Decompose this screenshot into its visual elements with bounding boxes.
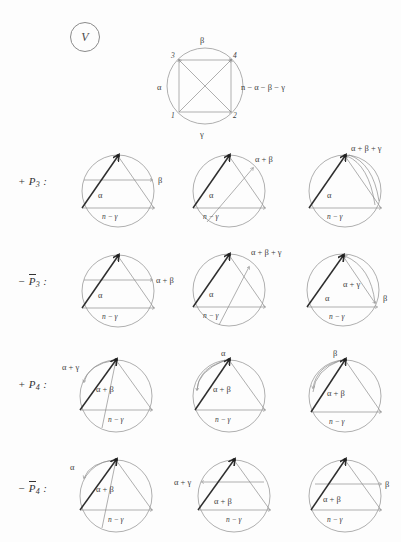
label-3: n − γ — [329, 312, 346, 321]
diagram-p4-plus-3: β α + β n − γ — [297, 348, 401, 442]
chord-alpha — [193, 255, 229, 307]
row-label-p4-minus: − P4 : — [18, 482, 47, 496]
label-0: α — [327, 190, 332, 200]
chord-closing — [234, 460, 270, 510]
apex-dot — [343, 458, 347, 462]
label-1: α + β — [255, 154, 273, 164]
label-0: α — [221, 348, 226, 358]
label-1: α + β — [327, 388, 345, 398]
chord-closing — [229, 360, 265, 410]
cell-circle — [82, 255, 154, 327]
chord-closing — [229, 255, 265, 307]
label-1: α + β — [96, 484, 114, 494]
apex-dot — [114, 358, 118, 362]
label-1: β — [158, 175, 162, 185]
diagram-p4-plus-2: α α + β n − γ — [181, 348, 291, 442]
label-2: n − γ — [108, 515, 125, 524]
diagram-p4-minus-3: β α + β n − γ — [297, 448, 401, 542]
cell-circle — [82, 155, 154, 227]
diagram-p4-minus-1: α α + β n − γ — [48, 448, 176, 542]
label-2: n − γ — [203, 311, 220, 320]
label-0: α — [209, 190, 214, 200]
chord-alpha — [82, 156, 118, 208]
apex-dot — [116, 254, 120, 258]
label-2: n − γ — [102, 312, 119, 321]
diagram-p3-minus-3: α α + γ β n − γ — [297, 245, 401, 335]
label-1: α + γ — [343, 279, 360, 289]
chord-alpha-plus-beta-plus-gamma — [219, 267, 249, 325]
chord-alpha — [82, 256, 118, 308]
chord-closing — [345, 360, 381, 412]
label-2: n − γ — [102, 212, 119, 221]
figure-tag-v: V — [70, 22, 100, 52]
label-1: α + β — [96, 384, 114, 394]
label-2: n − γ — [329, 417, 346, 426]
apex-dot — [341, 254, 345, 258]
label-0: α — [325, 293, 330, 303]
label-1: α + β — [213, 384, 231, 394]
row-label-p3-minus: − P3 : — [18, 275, 47, 289]
figure-tag-label: V — [81, 30, 88, 45]
master-label-gamma: γ — [199, 129, 204, 139]
row-label-p4-plus: + P4 : — [18, 378, 47, 392]
label-2: n − γ — [327, 212, 344, 221]
label-1: α + β — [323, 494, 341, 504]
chord-closing — [116, 460, 152, 510]
label-2: n − γ — [108, 415, 125, 424]
label-2: n − γ — [203, 212, 220, 221]
diagram-p3-plus-3: α α + β + γ n − γ — [297, 143, 401, 235]
label-0: α — [98, 190, 103, 200]
label-0: α + γ — [174, 477, 191, 487]
chord-closing — [118, 256, 154, 308]
label-0: α — [70, 462, 75, 472]
label-0: β — [333, 348, 337, 358]
apex-dot — [227, 358, 231, 362]
master-label-alpha: α — [157, 82, 162, 92]
label-1: α + β — [214, 496, 232, 506]
label-0: α + γ — [62, 362, 79, 372]
master-label-remainder: n − α − β − γ — [241, 82, 285, 92]
label-0: α — [98, 290, 103, 300]
arc-outer — [349, 155, 379, 201]
cell-circle — [309, 155, 381, 227]
diagram-p3-plus-2: α α + β n − γ — [181, 148, 291, 234]
label-1: α + β + γ — [351, 143, 382, 153]
diagram-p4-minus-2: α + γ α + β n − γ — [172, 448, 290, 542]
label-2: n − γ — [327, 515, 344, 524]
vertex-label-2: 2 — [233, 111, 237, 120]
master-label-beta: β — [200, 35, 204, 45]
chord-alpha — [309, 156, 345, 208]
apex-dot — [227, 154, 231, 158]
apex-dot — [116, 154, 120, 158]
arc-alpha-plus-beta-plus-gamma — [347, 156, 375, 205]
chord-alpha-plus-beta — [311, 360, 345, 412]
vertex-label-4: 4 — [233, 51, 237, 60]
apex-dot — [343, 358, 347, 362]
apex-dot — [232, 458, 236, 462]
diagram-p3-minus-1: α α + β n − γ — [66, 248, 176, 334]
chord-alpha — [193, 156, 229, 208]
arc-alpha-plus-gamma — [84, 360, 116, 382]
diagram-p4-plus-1: α + γ α + β n − γ — [60, 348, 176, 442]
apex-dot — [343, 154, 347, 158]
label-2: n − γ — [215, 415, 232, 424]
label-2: n − γ — [226, 515, 243, 524]
label-0: α — [209, 289, 214, 299]
label-2: β — [383, 293, 387, 303]
vertex-label-1: 1 — [171, 111, 175, 120]
diagram-p3-minus-2: α α + β + γ n − γ — [181, 245, 291, 335]
chord-closing — [116, 360, 152, 410]
vertex-label-3: 3 — [170, 51, 175, 60]
apex-dot — [227, 253, 231, 257]
apex-dot — [114, 458, 118, 462]
master-square-diagram: 1 2 3 4 β γ α n − α − β − γ — [145, 34, 275, 139]
row-label-p3-plus: + P3 : — [18, 175, 47, 189]
arc-alpha — [84, 460, 116, 478]
label-1: α + β + γ — [251, 247, 282, 257]
chord-closing — [345, 460, 381, 510]
diagram-p3-plus-1: α β n − γ — [66, 148, 176, 234]
chord-closing — [118, 156, 154, 208]
label-1: α + β — [156, 275, 174, 285]
figure-page: V 1 2 — [0, 0, 401, 542]
label-0: β — [385, 479, 389, 489]
